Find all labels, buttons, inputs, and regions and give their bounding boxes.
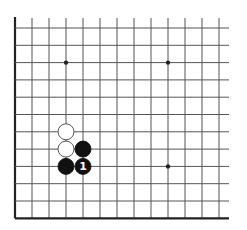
star-point-icon (166, 164, 170, 168)
black-stone-icon (58, 158, 74, 174)
black-stone: 1 (75, 158, 91, 174)
white-stone-icon (58, 141, 74, 157)
move-number-label: 1 (79, 160, 87, 173)
star-point-icon (64, 60, 68, 64)
board-grid (15, 17, 229, 218)
white-stone (58, 124, 74, 140)
black-stone (58, 158, 74, 174)
black-stone (75, 141, 91, 157)
go-board[interactable]: 1 (0, 0, 247, 230)
white-stone (58, 141, 74, 157)
white-stone-icon (58, 124, 74, 140)
star-point-icon (166, 60, 170, 64)
black-stone-icon (75, 141, 91, 157)
